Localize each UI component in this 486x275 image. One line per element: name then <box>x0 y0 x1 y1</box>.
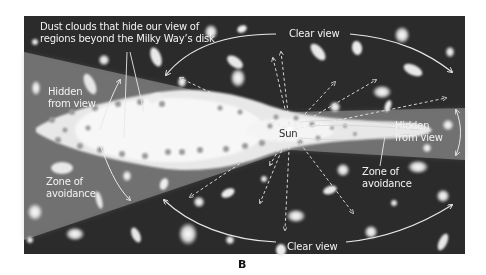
milky-way-zone-of-avoidance-diagram: Dust clouds that hide our view of region… <box>0 0 486 275</box>
zone-of-avoidance-right-line2: avoidance <box>362 178 412 190</box>
hidden-from-view-left-line2: from view <box>48 98 96 110</box>
panel-label: B <box>238 258 246 271</box>
dust-clouds-label-line1: Dust clouds that hide our view of <box>40 21 199 33</box>
zone-of-avoidance-left-line2: avoidance <box>46 188 96 200</box>
sun-label: Sun <box>279 128 297 140</box>
zone-of-avoidance-right-line1: Zone of <box>362 166 399 178</box>
zone-of-avoidance-left-line1: Zone of <box>46 176 83 188</box>
hidden-from-view-right-line2: from view <box>395 132 443 144</box>
dust-clouds-label-line2: regions beyond the Milky Way’s disk <box>40 33 215 45</box>
clear-view-top-label: Clear view <box>289 28 339 40</box>
hidden-from-view-left-line1: Hidden <box>48 86 82 98</box>
clear-view-bottom-label: Clear view <box>287 241 337 253</box>
hidden-from-view-right-line1: Hidden <box>395 120 429 132</box>
